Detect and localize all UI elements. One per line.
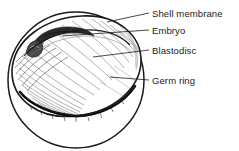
label-shell-membrane: Shell membrane	[152, 8, 223, 19]
label-blastodisc: Blastodisc	[152, 45, 196, 56]
diagram-canvas	[0, 0, 239, 151]
label-germ-ring: Germ ring	[152, 75, 195, 86]
label-embryo: Embryo	[152, 25, 185, 36]
leader-shell-membrane	[107, 13, 149, 22]
egg-blastodisc-figure: Shell membrane Embryo Blastodisc Germ ri…	[0, 0, 239, 151]
